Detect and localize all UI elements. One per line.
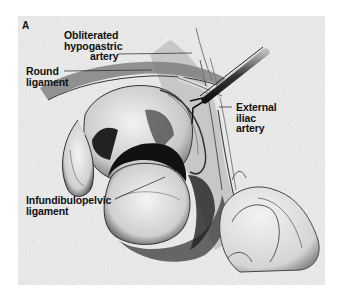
label-line: Infundibulopelvic (26, 195, 111, 206)
label-line: Obliterated (64, 30, 122, 41)
label-round-ligament: Round ligament (26, 66, 68, 87)
label-line: ligament (26, 206, 111, 217)
label-line: artery (90, 51, 122, 62)
label-line: Round (26, 66, 68, 77)
label-external-iliac-artery: External iliac artery (236, 102, 277, 134)
label-line: External (236, 102, 277, 113)
label-infundibulopelvic-ligament: Infundibulopelvic ligament (26, 195, 111, 216)
label-line: ligament (26, 77, 68, 88)
label-obliterated-hypogastric-artery: Obliterated hypogastric artery (64, 30, 122, 62)
illustration-drawing (0, 0, 341, 299)
panel-letter: A (22, 20, 29, 31)
label-line: artery (236, 123, 277, 134)
anatomical-figure: A Obliterated hypogastric artery Round l… (0, 0, 341, 299)
